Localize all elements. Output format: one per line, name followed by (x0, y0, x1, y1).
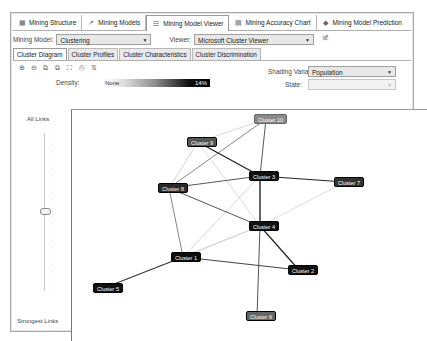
strongest-links-label: Strongest Links (17, 318, 58, 324)
prediction-icon: ◆ (322, 19, 330, 27)
tab-mining-model-viewer[interactable]: ☷ Mining Model Viewer (146, 15, 229, 31)
mining-model-label: Mining Model: (13, 36, 53, 43)
viewer-label: Viewer: (169, 36, 191, 43)
cluster-node-c5[interactable]: Cluster 5 (93, 283, 123, 293)
density-gradient: None 14% (103, 79, 210, 87)
cluster-link[interactable] (260, 226, 299, 270)
density-max: 14% (195, 79, 207, 87)
fit-icon[interactable]: ⛶ (65, 63, 74, 72)
tab-label: Mining Structure (29, 19, 76, 26)
all-links-label: All Links (27, 116, 49, 122)
mining-model-value: Clustering (60, 37, 89, 44)
zoom-out-icon[interactable]: ⊖ (29, 63, 38, 72)
tab-cluster-discrimination[interactable]: Cluster Discrimination (192, 48, 261, 60)
link-strength-slider-thumb[interactable] (40, 208, 51, 215)
density-min: None (105, 79, 119, 87)
cluster-node-c1[interactable]: Cluster 1 (171, 252, 201, 262)
structure-icon: ▦ (18, 19, 26, 27)
viewer-icon: ☷ (152, 20, 160, 28)
tab-mining-structure[interactable]: ▦ Mining Structure (13, 15, 82, 30)
tab-cluster-diagram[interactable]: Cluster Diagram (13, 48, 67, 60)
cluster-node-c3[interactable]: Cluster 3 (249, 171, 279, 181)
copy-view-icon[interactable]: ⧉ (53, 63, 62, 72)
chevron-down-icon: ▼ (143, 35, 148, 46)
slider-ticks (52, 133, 53, 291)
cluster-link[interactable] (169, 188, 183, 257)
tab-label: Mining Accuracy Chart (245, 19, 310, 26)
cluster-link[interactable] (169, 142, 198, 188)
cluster-link[interactable] (257, 226, 260, 316)
link-strength-slider-panel: All Links Strongest Links (12, 93, 70, 331)
tab-mining-models[interactable]: ↗ Mining Models (82, 15, 146, 30)
layout-icon[interactable]: ⇅ (89, 63, 98, 72)
cluster-link[interactable] (183, 176, 260, 257)
state-label: State: (285, 81, 302, 88)
diagram-toolbar: ⊕ ⊖ ⧉ ⧉ ⛶ ⎙ ⇅ (17, 63, 98, 73)
cluster-node-c8[interactable]: Cluster 8 (158, 183, 188, 193)
cluster-node-c10[interactable]: Cluster 10 (254, 114, 287, 124)
viewer-value: Microsoft Cluster Viewer (198, 37, 268, 44)
viewer-dropdown[interactable]: Microsoft Cluster Viewer ▼ (194, 34, 314, 45)
cluster-link[interactable] (260, 182, 345, 226)
viewer-tabs: Cluster Diagram Cluster Profiles Cluster… (13, 48, 411, 61)
shading-variable-value: Population (312, 69, 343, 76)
print-icon[interactable]: ⎙ (77, 63, 86, 72)
cluster-node-c4[interactable]: Cluster 4 (249, 221, 279, 231)
mining-model-dropdown[interactable]: Clustering ▼ (56, 34, 151, 45)
mining-designer-window: ▦ Mining Structure ↗ Mining Models ☷ Min… (10, 12, 414, 332)
tab-label: Mining Model Viewer (163, 20, 223, 27)
designer-tabs: ▦ Mining Structure ↗ Mining Models ☷ Min… (13, 15, 411, 31)
chevron-down-icon: ▼ (387, 80, 392, 91)
cluster-node-c9[interactable]: Cluster 9 (187, 137, 217, 147)
cluster-node-c6[interactable]: Cluster 6 (246, 311, 276, 321)
shading-variable-dropdown[interactable]: Population ▼ (308, 66, 396, 77)
model-selector-row: Mining Model: Clustering ▼ Viewer: Micro… (13, 32, 411, 46)
state-dropdown[interactable]: ▼ (308, 79, 396, 90)
accuracy-chart-icon: ▤ (234, 19, 242, 27)
chevron-down-icon: ▼ (305, 35, 310, 46)
density-legend: Density: None 14% (11, 79, 211, 89)
tab-cluster-profiles[interactable]: Cluster Profiles (68, 48, 119, 60)
zoom-in-icon[interactable]: ⊕ (17, 63, 26, 72)
copy-graph-icon[interactable]: ⧉ (41, 63, 50, 72)
cluster-node-c7[interactable]: Cluster 7 (334, 177, 364, 187)
cluster-link[interactable] (260, 119, 266, 176)
tab-mining-accuracy-chart[interactable]: ▤ Mining Accuracy Chart (229, 15, 316, 30)
cluster-diagram-canvas[interactable]: Cluster 10Cluster 9Cluster 3Cluster 7Clu… (71, 109, 427, 341)
tab-label: Mining Model Prediction (333, 19, 402, 26)
tab-mining-model-prediction[interactable]: ◆ Mining Model Prediction (317, 15, 407, 30)
tab-cluster-characteristics[interactable]: Cluster Characteristics (119, 48, 190, 60)
models-icon: ↗ (87, 19, 95, 27)
chevron-down-icon: ▼ (387, 67, 392, 78)
tab-label: Mining Models (98, 19, 140, 26)
cluster-node-c2[interactable]: Cluster 2 (288, 265, 318, 275)
document-icon[interactable]: 🗎 (322, 32, 328, 46)
density-label: Density: (56, 79, 79, 86)
